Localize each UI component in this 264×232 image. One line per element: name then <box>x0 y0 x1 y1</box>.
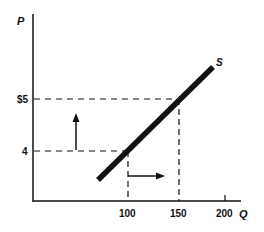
arrow-right-icon <box>156 173 165 180</box>
y-tick-label-5: $5 <box>17 94 29 105</box>
y-tick-label-4: 4 <box>22 146 28 157</box>
supply-chart: P Q S $5 4 100 150 200 <box>0 0 264 232</box>
x-tick-label-150: 150 <box>170 208 187 219</box>
x-tick-label-200: 200 <box>216 208 233 219</box>
arrow-up-icon <box>73 113 80 122</box>
x-tick-label-100: 100 <box>119 208 136 219</box>
x-axis-label: Q <box>239 208 248 220</box>
curve-label: S <box>216 57 223 68</box>
y-axis-label: P <box>17 15 25 27</box>
supply-curve <box>98 67 213 180</box>
